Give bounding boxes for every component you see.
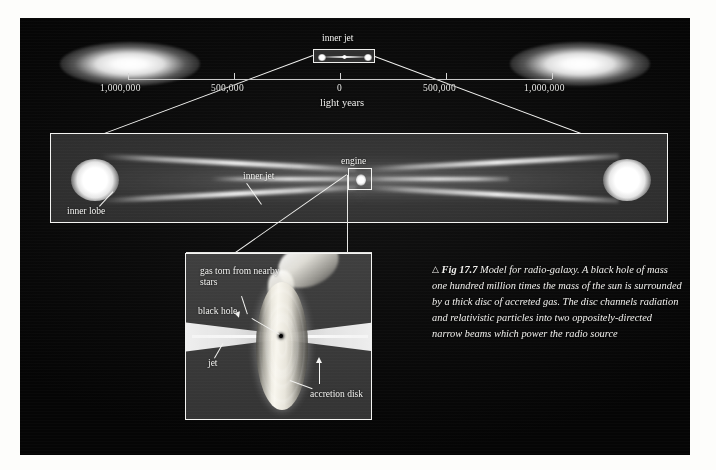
- jet-cocoon-right: [359, 160, 609, 200]
- arrow-gas-shaft: [241, 296, 248, 314]
- scale-tick-4: [552, 73, 553, 79]
- scale-label-2: 0: [337, 83, 342, 93]
- label-gas-torn: gas torn from nearby stars: [200, 266, 280, 287]
- label-black-hole: black hole: [198, 306, 237, 317]
- arrow-accretion-head: [316, 357, 322, 363]
- label-inner-lobe: inner lobe: [67, 206, 105, 217]
- inner-lobe-right: [603, 159, 651, 201]
- inner-jet-panel: inner jet engine inner lobe: [50, 133, 668, 223]
- mini-lobe-right: [364, 54, 372, 61]
- label-accretion-disk: accretion disk: [310, 389, 372, 400]
- label-engine: engine: [341, 156, 366, 167]
- scale-tick-1: [234, 73, 235, 79]
- figure-caption: △ Fig 17.7 Model for radio-galaxy. A bla…: [432, 262, 682, 342]
- mini-lobe-left: [318, 54, 326, 61]
- scale-label-0: 1,000,000: [100, 83, 141, 93]
- inner-jet-mini-box: [313, 49, 375, 63]
- mini-inner-jet-label: inner jet: [322, 33, 353, 44]
- figure-plate: inner jet 1,000,000 500,000 0 500,000 1,…: [20, 18, 690, 455]
- zoom-line-engine-vertical: [347, 175, 348, 253]
- caption-triangle-icon: △: [432, 264, 439, 274]
- engine-box: [348, 168, 372, 190]
- scale-label-4: 1,000,000: [524, 83, 565, 93]
- engine-core: [356, 174, 366, 186]
- engine-detail-panel: gas torn from nearby stars black hole je…: [185, 253, 372, 420]
- figure-page: inner jet 1,000,000 500,000 0 500,000 1,…: [0, 0, 716, 470]
- scale-tick-3: [446, 73, 447, 79]
- caption-body: A black hole of mass one hundred million…: [432, 264, 682, 339]
- caption-figure-number: Fig 17.7: [442, 264, 478, 275]
- inner-lobe-left: [71, 159, 119, 201]
- arrow-accretion: [314, 358, 326, 386]
- jet-cocoon-left: [111, 160, 361, 200]
- label-jet: jet: [208, 358, 218, 369]
- scale-ruler: [128, 79, 552, 80]
- caption-title: Model for radio-galaxy.: [480, 264, 580, 275]
- accretion-disk-shadow: [256, 282, 308, 410]
- black-hole-dot: [279, 334, 283, 338]
- label-inner-jet: inner jet: [243, 171, 274, 182]
- scale-label-1: 500,000: [211, 83, 244, 93]
- scale-tick-0: [128, 73, 129, 79]
- scale-label-3: 500,000: [423, 83, 456, 93]
- scale-axis-title: light years: [320, 97, 364, 108]
- arrow-accretion-shaft: [319, 362, 320, 384]
- mini-engine-core: [342, 55, 347, 59]
- scale-tick-2: [340, 73, 341, 79]
